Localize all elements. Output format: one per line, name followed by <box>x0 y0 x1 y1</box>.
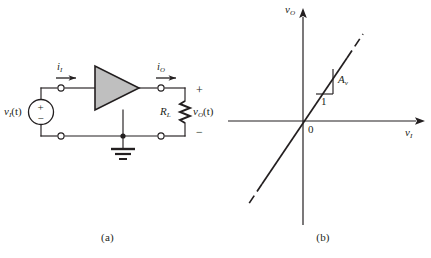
source-voltage-label: vI(t) <box>4 106 22 119</box>
panel-b-caption: (b) <box>215 231 431 243</box>
output-minus-sign: − <box>196 126 203 138</box>
terminal-output-bottom <box>158 133 164 139</box>
x-axis-arrowhead <box>415 117 425 125</box>
output-plus-sign: + <box>196 84 203 96</box>
y-axis-arrowhead <box>299 8 307 18</box>
ground-node-dot <box>120 133 125 138</box>
output-current-arrow-icon <box>156 75 176 80</box>
figure-root: vI(t) + − iI iO RL vO(t) + − (a) <box>0 0 431 258</box>
panel-b-transfer-characteristic: vO vI 0 Av 1 (b) <box>215 0 431 258</box>
input-current-label: iI <box>57 62 62 73</box>
input-current-arrow-icon <box>56 75 76 80</box>
terminal-output-top <box>158 85 164 91</box>
ground-icon <box>111 149 135 159</box>
load-resistor-symbol <box>180 101 190 123</box>
transfer-characteristic-plot <box>215 0 431 258</box>
x-axis-label: vI <box>405 127 412 140</box>
x-axis <box>228 117 425 125</box>
transfer-line-dashed-lower <box>248 184 262 205</box>
panel-a-caption: (a) <box>0 231 215 243</box>
circuit-schematic <box>0 0 215 258</box>
origin-label: 0 <box>308 124 314 135</box>
load-resistor-label: RL <box>160 106 171 119</box>
amplifier-triangle-icon <box>95 66 139 110</box>
output-voltage-label: vO(t) <box>193 106 213 119</box>
transfer-line-dashed-upper <box>347 34 363 58</box>
output-current-label: iO <box>157 62 165 73</box>
panel-a-circuit: vI(t) + − iI iO RL vO(t) + − (a) <box>0 0 215 258</box>
y-axis-label: vO <box>285 4 295 17</box>
terminal-input-top <box>58 85 64 91</box>
y-axis <box>299 8 307 225</box>
source-minus-sign: − <box>38 113 44 124</box>
slope-label: Av <box>338 74 348 87</box>
slope-run-label: 1 <box>321 96 327 107</box>
terminal-input-bottom <box>58 133 64 139</box>
